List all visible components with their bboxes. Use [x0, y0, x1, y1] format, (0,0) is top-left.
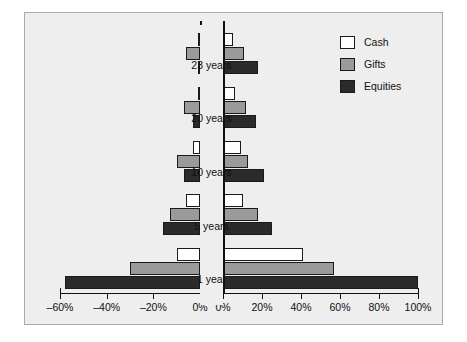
legend-swatch-cash — [340, 36, 355, 49]
x-right-1-label: 20% — [251, 301, 272, 313]
bar-left-cash-10-years — [193, 141, 200, 154]
bar-right-cash-10-years — [223, 141, 241, 154]
x-axis-right-end-cap — [418, 288, 419, 294]
category-label-1-year: 1 year — [154, 273, 269, 285]
x-right-5-tick — [418, 294, 419, 299]
bar-right-cash-20-years — [223, 87, 235, 100]
legend-item-gifts[interactable]: Gifts — [340, 55, 401, 73]
legend-label-gifts: Gifts — [364, 58, 386, 70]
x-left-1-label: –40% — [93, 301, 120, 313]
bar-right-cash-1-year — [223, 248, 303, 261]
bar-right-cash-5-years — [223, 194, 243, 207]
category-label-20-years: 20 years — [154, 112, 269, 124]
plot-frame: 23 years20 years10 years5 years1 year Ca… — [24, 12, 443, 325]
x-left-0-label: –60% — [47, 301, 74, 313]
legend: CashGiftsEquities — [340, 33, 401, 99]
x-axis-left — [60, 293, 201, 294]
chart-plot-area: 23 years20 years10 years5 years1 year Ca… — [25, 13, 444, 326]
bar-left-cash-5-years — [186, 194, 200, 207]
center-divider-band: 23 years20 years10 years5 years1 year — [200, 25, 223, 305]
category-label-23-years: 23 years — [154, 59, 269, 71]
x-right-3-label: 60% — [329, 301, 350, 313]
x-right-1-tick — [262, 294, 263, 299]
category-label-5-years: 5 years — [154, 220, 269, 232]
legend-item-equities[interactable]: Equities — [340, 77, 401, 95]
x-axis-left-start-cap — [60, 288, 61, 294]
x-right-3-tick — [340, 294, 341, 299]
x-right-2-label: 40% — [290, 301, 311, 313]
chart-figure: 23 years20 years10 years5 years1 year Ca… — [0, 0, 467, 342]
legend-swatch-equities — [340, 80, 355, 93]
x-right-4-label: 80% — [368, 301, 389, 313]
legend-item-cash[interactable]: Cash — [340, 33, 401, 51]
x-left-0-tick — [60, 294, 61, 299]
bar-left-cash-1-year — [177, 248, 200, 261]
x-axis-right — [223, 293, 419, 294]
legend-label-equities: Equities — [364, 80, 401, 92]
x-right-2-tick — [301, 294, 302, 299]
x-left-2-tick — [153, 294, 154, 299]
legend-swatch-gifts — [340, 58, 355, 71]
x-right-0-tick — [223, 294, 224, 299]
x-left-1-tick — [107, 294, 108, 299]
x-left-2-label: –20% — [140, 301, 167, 313]
legend-label-cash: Cash — [364, 36, 389, 48]
x-right-4-tick — [379, 294, 380, 299]
x-right-5-label: 100% — [405, 301, 432, 313]
category-label-10-years: 10 years — [154, 166, 269, 178]
